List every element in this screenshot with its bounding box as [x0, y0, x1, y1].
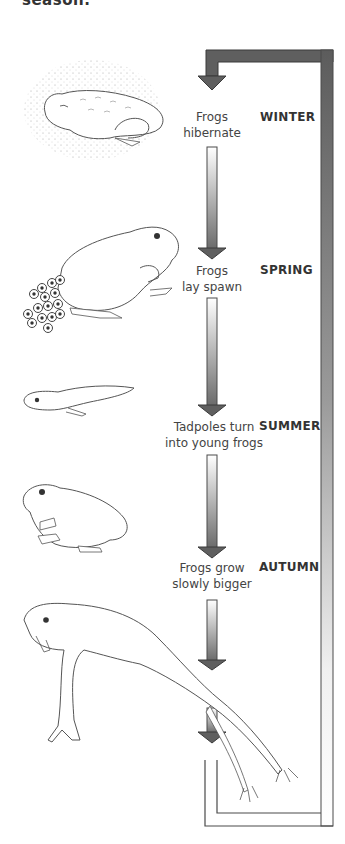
season-label-winter: WINTER: [260, 110, 315, 124]
frog-with-spawn-illustration: [24, 227, 179, 332]
tadpole-illustration: [24, 386, 134, 416]
hibernating-frog-illustration: [24, 60, 163, 160]
adult-frog-illustration: [24, 603, 298, 802]
stage-summer-text: Tadpoles turn into young frogs: [162, 419, 266, 451]
stage-autumn-text: Frogs grow slowly bigger: [166, 560, 258, 592]
arrow-summer-to-autumn: [198, 455, 226, 558]
stage-spring-text: Frogs lay spawn: [170, 263, 254, 295]
young-frog-illustration: [23, 485, 127, 552]
arrow-winter-to-spring: [198, 147, 226, 259]
season-label-autumn: AUTUMN: [259, 560, 319, 574]
season-label-spring: SPRING: [260, 263, 313, 277]
arrow-spring-to-summer: [198, 298, 226, 416]
arrow-autumn-to-adult: [198, 600, 226, 670]
season-label-summer: SUMMER: [259, 419, 321, 433]
stage-winter-text: Frogs hibernate: [175, 109, 249, 141]
